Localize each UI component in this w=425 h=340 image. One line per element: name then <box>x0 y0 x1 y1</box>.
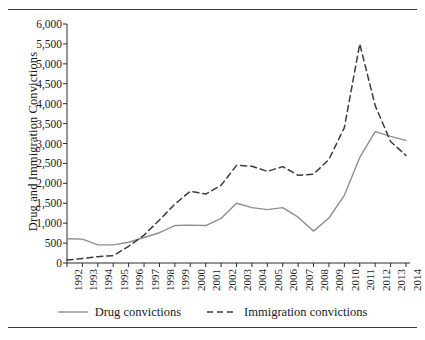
x-tick-label: 1995 <box>118 269 130 291</box>
x-tick-label: 1993 <box>87 269 99 291</box>
chart-legend: Drug convictionsImmigration convictions <box>0 300 425 324</box>
legend-item: Immigration convictions <box>207 305 367 320</box>
x-tick-label: 2002 <box>226 269 238 291</box>
x-tick-label: 2009 <box>333 269 345 291</box>
x-tick-label: 2010 <box>349 269 361 291</box>
series-line <box>67 44 406 260</box>
x-tick-label: 1992 <box>72 269 84 291</box>
x-tick-label: 2001 <box>210 269 222 291</box>
x-tick-label: 2012 <box>380 269 392 291</box>
x-tick-label: 2003 <box>241 269 253 291</box>
chart-plot <box>0 14 425 300</box>
x-tick-label: 2011 <box>364 269 376 291</box>
chart-area: Drug and Immigration Convictions 05001,0… <box>0 14 425 300</box>
x-tick-label: 1994 <box>102 269 114 291</box>
legend-label: Immigration convictions <box>244 305 367 320</box>
x-tick-label: 2000 <box>195 269 207 291</box>
figure-panel: Drug and Immigration Convictions 05001,0… <box>0 0 425 340</box>
x-tick-label: 1998 <box>164 269 176 291</box>
legend-swatch-icon <box>58 307 88 317</box>
x-tick-label: 2014 <box>411 269 423 291</box>
x-tick-label: 1997 <box>149 269 161 291</box>
x-tick-label: 2008 <box>318 269 330 291</box>
x-tick-label: 2006 <box>287 269 299 291</box>
series-line <box>67 132 406 245</box>
x-tick-label: 1999 <box>179 269 191 291</box>
legend-swatch-icon <box>207 307 237 317</box>
legend-item: Drug convictions <box>58 305 181 320</box>
x-tick-label: 2007 <box>303 269 315 291</box>
x-tick-label: 2005 <box>272 269 284 291</box>
legend-label: Drug convictions <box>95 305 181 320</box>
x-tick-label: 2004 <box>256 269 268 291</box>
x-tick-label: 1996 <box>133 269 145 291</box>
x-tick-label: 2013 <box>395 269 407 291</box>
top-rule <box>8 9 417 10</box>
